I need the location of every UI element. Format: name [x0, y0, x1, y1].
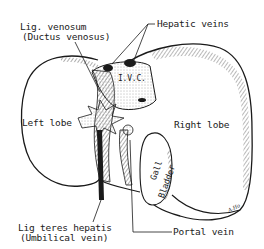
label-ductus-venosus: (Ductus venosus) [22, 32, 110, 42]
label-right-lobe: Right lobe [174, 120, 229, 130]
label-ivc: I.V.C. [118, 74, 146, 84]
hepatic-vein-opening-left [103, 65, 113, 72]
portal-vein [119, 130, 132, 185]
portal-vein-end [123, 125, 133, 135]
ivc-lower-opening [138, 98, 146, 102]
leader-hepatic-veins [112, 24, 155, 64]
label-portal-vein: Portal vein [173, 227, 234, 237]
label-hepatic-veins: Hepatic veins [157, 19, 229, 29]
hepatic-vein-opening-right [124, 59, 136, 67]
label-umbilical-vein: (Umbilical vein) [20, 233, 108, 243]
label-left-lobe: Left lobe [22, 118, 72, 128]
leader-lig-teres [93, 200, 101, 222]
